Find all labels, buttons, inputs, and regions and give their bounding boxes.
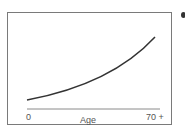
x-tick-0: 0 — [26, 113, 31, 122]
x-axis-label: Age — [80, 116, 96, 125]
x-tick-70: 70 + — [146, 113, 164, 122]
data-curve — [27, 37, 155, 100]
bullet-dot — [181, 12, 185, 18]
